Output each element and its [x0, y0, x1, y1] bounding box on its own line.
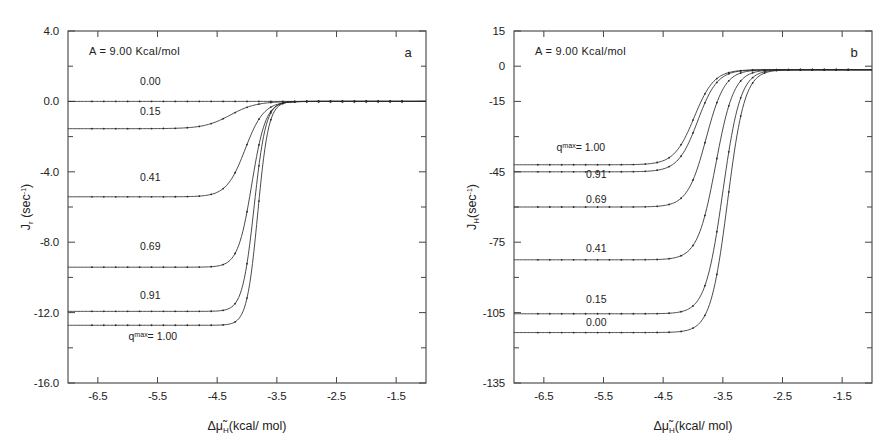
panel-a: 4.00.0-4.0-8.0-12.0-16.0-6.5-5.5-4.5-3.5…: [0, 0, 446, 440]
data-point: [222, 188, 224, 190]
data-point: [222, 101, 224, 103]
data-point: [377, 101, 379, 103]
data-point: [740, 97, 742, 99]
data-point: [573, 313, 575, 315]
data-point: [246, 297, 248, 299]
data-point: [175, 127, 177, 129]
data-point: [549, 259, 551, 261]
y-tick-label: -135: [483, 377, 505, 389]
data-point: [163, 310, 165, 312]
y-tick-label: -16.0: [34, 377, 59, 389]
data-point: [330, 101, 332, 103]
data-point: [115, 101, 117, 103]
data-point: [740, 80, 742, 82]
data-point: [549, 164, 551, 166]
data-point: [258, 118, 260, 120]
data-point: [222, 118, 224, 120]
data-point: [632, 332, 634, 334]
data-point: [91, 310, 93, 312]
data-point: [680, 155, 682, 157]
data-point: [680, 331, 682, 333]
data-point: [282, 103, 284, 105]
data-point: [234, 172, 236, 174]
data-point: [198, 125, 200, 127]
data-point: [91, 128, 93, 130]
data-point: [597, 332, 599, 334]
data-point: [644, 259, 646, 261]
data-point: [632, 313, 634, 315]
data-point: [342, 101, 344, 103]
data-point: [656, 332, 658, 334]
data-point: [115, 310, 117, 312]
curve-label-0-69: 0.69: [140, 240, 161, 252]
data-point: [692, 179, 694, 181]
data-point: [585, 332, 587, 334]
x-tick-label: -3.5: [713, 390, 732, 402]
data-point: [549, 206, 551, 208]
data-point: [198, 324, 200, 326]
data-point: [246, 211, 248, 213]
plot-a: 4.00.0-4.0-8.0-12.0-16.0-6.5-5.5-4.5-3.5…: [0, 0, 446, 440]
data-point: [609, 171, 611, 173]
panel-letter: a: [404, 45, 412, 60]
data-point: [115, 196, 117, 198]
data-point: [163, 324, 165, 326]
data-point: [740, 115, 742, 117]
data-point: [210, 123, 212, 125]
data-point: [246, 263, 248, 265]
data-point: [175, 324, 177, 326]
data-point: [704, 285, 706, 287]
data-point: [680, 197, 682, 199]
data-point: [823, 69, 825, 71]
data-point: [632, 164, 634, 166]
y-axis-title: Jr (sec-1): [19, 184, 35, 230]
data-point: [151, 101, 153, 103]
data-point: [573, 206, 575, 208]
data-point: [91, 101, 93, 103]
data-point: [163, 128, 165, 130]
data-point: [103, 101, 105, 103]
x-axis-title: Δμ̃H(kcal/ mol): [208, 419, 287, 435]
data-point: [270, 119, 272, 121]
axes-frame: [68, 31, 426, 383]
data-point: [127, 266, 129, 268]
data-point: [728, 73, 730, 75]
data-point: [258, 200, 260, 202]
data-point: [115, 266, 117, 268]
y-tick-label: 0: [499, 60, 505, 72]
data-point: [716, 82, 718, 84]
data-point: [537, 206, 539, 208]
data-point: [800, 69, 802, 71]
data-point: [585, 259, 587, 261]
data-point: [621, 171, 623, 173]
y-tick-label: -4.0: [40, 166, 59, 178]
data-point: [656, 313, 658, 315]
data-point: [210, 324, 212, 326]
data-point: [549, 332, 551, 334]
data-point: [561, 206, 563, 208]
data-point: [764, 72, 766, 74]
data-point: [776, 70, 778, 72]
data-point: [621, 206, 623, 208]
data-point: [632, 206, 634, 208]
data-point: [668, 157, 670, 159]
curve-label-0-15: 0.15: [140, 105, 161, 117]
data-point: [704, 142, 706, 144]
data-point: [258, 103, 260, 105]
data-point: [270, 112, 272, 114]
data-point: [632, 259, 634, 261]
data-point: [270, 106, 272, 108]
data-point: [151, 266, 153, 268]
data-point: [716, 231, 718, 233]
data-point: [294, 101, 296, 103]
data-point: [103, 266, 105, 268]
data-point: [139, 310, 141, 312]
x-tick-label: -6.5: [88, 390, 107, 402]
data-point: [835, 69, 837, 71]
data-point: [716, 102, 718, 104]
data-point: [139, 196, 141, 198]
data-point: [234, 112, 236, 114]
data-point: [151, 324, 153, 326]
data-point: [210, 193, 212, 195]
y-tick-label: -15: [489, 95, 505, 107]
